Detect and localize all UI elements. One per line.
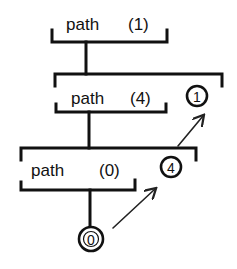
return-arrow-icon bbox=[113, 189, 155, 228]
leaf-value: 0 bbox=[87, 232, 95, 248]
node-path-4: path (4) 1 bbox=[55, 74, 222, 112]
bracket-upper bbox=[55, 74, 222, 86]
return-value-circle: 1 bbox=[187, 86, 207, 106]
node-leaf: 0 bbox=[79, 227, 103, 251]
node-path-1: path (1) bbox=[52, 15, 167, 42]
node-label: path bbox=[71, 89, 104, 108]
bracket-lower bbox=[21, 180, 135, 190]
recursion-trace-diagram: path (1) path (4) 1 path (0) 4 0 bbox=[0, 0, 237, 269]
return-arrow-icon bbox=[178, 116, 203, 146]
node-arg: (4) bbox=[130, 89, 151, 108]
node-label: path bbox=[66, 15, 99, 34]
node-arg: (1) bbox=[128, 15, 149, 34]
return-value: 1 bbox=[193, 89, 201, 105]
return-value: 4 bbox=[167, 160, 175, 176]
node-path-0: path (0) 4 bbox=[21, 148, 196, 190]
node-arg: (0) bbox=[99, 161, 120, 180]
return-value-circle: 4 bbox=[161, 157, 181, 177]
node-label: path bbox=[31, 161, 64, 180]
